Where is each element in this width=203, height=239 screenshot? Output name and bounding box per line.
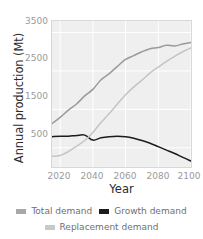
chart-legend: Total demand Growth demand Replacement d…	[0, 203, 203, 235]
series-line-total-demand	[52, 43, 191, 124]
legend-swatch-icon	[16, 209, 26, 214]
series-line-replacement-demand	[52, 48, 191, 156]
y-tick-label: 1500	[20, 92, 48, 101]
gridlines	[52, 21, 191, 167]
plot-area	[51, 20, 192, 168]
x-axis-title: Year	[51, 182, 192, 196]
plot-svg	[52, 21, 191, 167]
legend-item-replacement-demand[interactable]: Replacement demand	[45, 222, 159, 232]
legend-swatch-icon	[45, 225, 55, 230]
series-lines	[52, 43, 191, 162]
legend-row-2: Replacement demand	[0, 219, 203, 235]
legend-label: Growth demand	[114, 206, 186, 216]
chart-container: Annual production (Mt) 3500 2500 1500 50…	[0, 0, 203, 239]
x-tick-label: 2100	[169, 171, 203, 181]
legend-label: Total demand	[31, 206, 92, 216]
y-tick-label: 500	[20, 130, 48, 139]
legend-label: Replacement demand	[60, 222, 159, 232]
legend-row-1: Total demand Growth demand	[0, 203, 203, 219]
y-tick-label: 3500	[20, 17, 48, 26]
legend-swatch-icon	[99, 209, 109, 214]
legend-item-total-demand[interactable]: Total demand	[16, 206, 92, 216]
legend-item-growth-demand[interactable]: Growth demand	[99, 206, 186, 216]
y-tick-label: 2500	[20, 54, 48, 63]
